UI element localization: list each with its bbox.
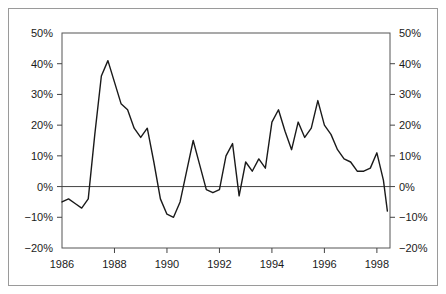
data-line-1 [62, 61, 387, 218]
y-axis-label-right: −20% [399, 242, 428, 254]
y-axis-label-right: 30% [399, 88, 421, 100]
y-axis-label-left: 0% [37, 181, 53, 193]
y-axis-label-left: −20% [25, 242, 54, 254]
y-axis-label-right: −10% [399, 211, 428, 223]
y-axis-label-left: 40% [31, 58, 53, 70]
x-axis-label: 1986 [50, 258, 74, 270]
x-axis-label: 1988 [102, 258, 126, 270]
x-axis-label: 1990 [155, 258, 179, 270]
y-axis-label-left: 20% [31, 119, 53, 131]
y-axis-label-right: 20% [399, 119, 421, 131]
y-axis-label-left: 10% [31, 150, 53, 162]
x-axis-label: 1998 [365, 258, 389, 270]
y-axis-label-right: 10% [399, 150, 421, 162]
line-chart: −20%−10%0%10%20%30%40%50%−20%−10%0%10%20… [0, 0, 446, 294]
y-axis-label-left: 50% [31, 27, 53, 39]
x-axis-label: 1996 [312, 258, 336, 270]
y-axis-label-right: 50% [399, 27, 421, 39]
x-axis-label: 1992 [207, 258, 231, 270]
x-axis-label: 1994 [260, 258, 284, 270]
y-axis-label-right: 40% [399, 58, 421, 70]
y-axis-label-left: 30% [31, 88, 53, 100]
y-axis-label-right: 0% [399, 181, 415, 193]
plot-area-border [62, 33, 390, 248]
y-axis-label-left: −10% [25, 211, 54, 223]
chart-figure: −20%−10%0%10%20%30%40%50%−20%−10%0%10%20… [0, 0, 446, 294]
